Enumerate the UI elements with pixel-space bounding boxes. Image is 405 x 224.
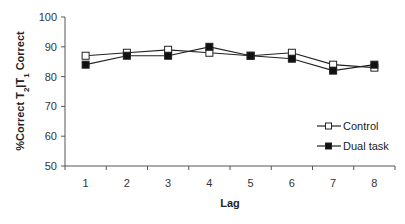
- x-tick-label: 1: [83, 177, 89, 189]
- filled-square-marker: [247, 52, 254, 59]
- filled-square-marker: [288, 55, 295, 62]
- filled-square-icon: [326, 143, 332, 149]
- y-axis: 5060708090100: [39, 11, 65, 172]
- x-tick-label: 7: [330, 177, 336, 189]
- x-tick-label: 4: [206, 177, 212, 189]
- y-tick-label: 70: [45, 100, 57, 112]
- x-tick-label: 3: [165, 177, 171, 189]
- x-tick-label: 6: [289, 177, 295, 189]
- legend-item: Control: [317, 120, 378, 132]
- y-tick-label: 60: [45, 130, 57, 142]
- y-title-main: %Correct T: [14, 92, 26, 151]
- legend-label: Control: [343, 120, 378, 132]
- y-title-end: Correct: [14, 31, 26, 74]
- x-tick-label: 2: [124, 177, 130, 189]
- series-dual-task: [82, 43, 378, 74]
- filled-square-marker: [123, 52, 130, 59]
- filled-square-marker: [330, 67, 337, 74]
- x-axis: 12345678: [65, 166, 395, 189]
- filled-square-marker: [165, 52, 172, 59]
- legend-label: Dual task: [343, 140, 389, 152]
- open-square-marker: [82, 52, 89, 59]
- legend: ControlDual task: [317, 120, 389, 152]
- y-tick-label: 80: [45, 71, 57, 83]
- filled-square-marker: [82, 61, 89, 68]
- filled-square-marker: [371, 61, 378, 68]
- x-axis-title: Lag: [220, 197, 240, 209]
- chart-canvas: 5060708090100 12345678 ControlDual task …: [0, 0, 405, 224]
- y-axis-title: %Correct T2|T1 Correct: [14, 31, 31, 151]
- x-tick-label: 8: [371, 177, 377, 189]
- legend-item: Dual task: [317, 140, 389, 152]
- series-layer: [82, 43, 378, 74]
- y-tick-label: 100: [39, 11, 57, 23]
- x-tick-label: 5: [248, 177, 254, 189]
- filled-square-marker: [206, 43, 213, 50]
- y-tick-label: 90: [45, 41, 57, 53]
- y-tick-label: 50: [45, 160, 57, 172]
- open-square-icon: [326, 123, 332, 129]
- y-title-mid: |T: [14, 78, 26, 88]
- line-chart: 5060708090100 12345678 ControlDual task …: [0, 0, 405, 224]
